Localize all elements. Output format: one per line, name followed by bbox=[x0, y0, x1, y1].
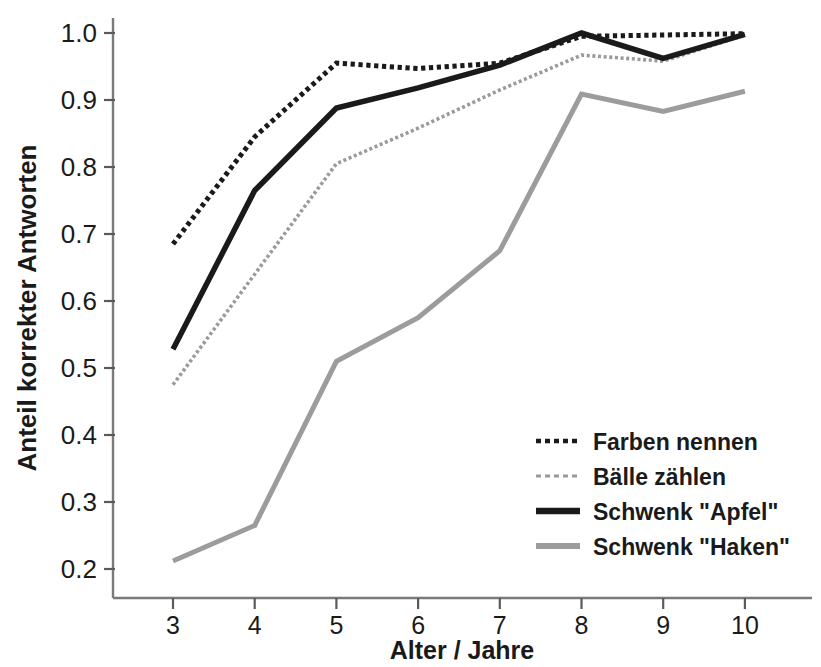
x-tick-label: 6 bbox=[411, 611, 425, 639]
series-line-3 bbox=[173, 33, 745, 349]
legend-label-3: Schwenk "Apfel" bbox=[593, 499, 778, 525]
line-chart-svg: 1.00.90.80.70.60.50.40.30.2 345678910 Fa… bbox=[0, 0, 821, 667]
x-tick-label: 3 bbox=[166, 611, 180, 639]
y-axis-label: Anteil korrekter Antworten bbox=[12, 145, 42, 472]
y-tick-label: 0.8 bbox=[61, 152, 97, 182]
x-tick-label: 5 bbox=[329, 611, 343, 639]
y-tick-label: 0.5 bbox=[61, 353, 97, 383]
series-line-4 bbox=[173, 91, 745, 561]
chart-legend: Farben nennenBälle zählenSchwenk "Apfel"… bbox=[536, 429, 790, 560]
y-axis-ticks: 1.00.90.80.70.60.50.40.30.2 bbox=[61, 18, 115, 584]
legend-label-1: Farben nennen bbox=[593, 429, 758, 455]
legend-label-4: Schwenk "Haken" bbox=[593, 534, 790, 560]
chart-figure: 1.00.90.80.70.60.50.40.30.2 345678910 Fa… bbox=[0, 0, 821, 667]
y-tick-label: 0.3 bbox=[61, 487, 97, 517]
y-tick-label: 0.4 bbox=[61, 420, 97, 450]
series-line-1 bbox=[173, 34, 745, 244]
x-tick-label: 10 bbox=[731, 611, 759, 639]
x-tick-label: 7 bbox=[493, 611, 507, 639]
x-axis-label: Alter / Jahre bbox=[390, 636, 535, 664]
x-tick-label: 4 bbox=[248, 611, 262, 639]
y-tick-label: 1.0 bbox=[61, 18, 97, 48]
y-tick-label: 0.7 bbox=[61, 219, 97, 249]
y-tick-label: 0.6 bbox=[61, 286, 97, 316]
x-tick-label: 8 bbox=[575, 611, 589, 639]
y-tick-label: 0.2 bbox=[61, 554, 97, 584]
series-line-2 bbox=[173, 35, 745, 385]
x-tick-label: 9 bbox=[656, 611, 670, 639]
x-axis-ticks: 345678910 bbox=[166, 598, 759, 639]
legend-label-2: Bälle zählen bbox=[593, 464, 726, 490]
y-tick-label: 0.9 bbox=[61, 85, 97, 115]
